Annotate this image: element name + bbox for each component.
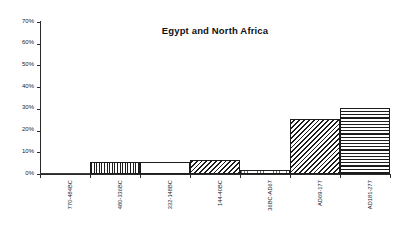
- y-tick-label: 40%: [22, 83, 34, 89]
- y-tick-label: 60%: [22, 39, 34, 45]
- x-tick-mark: [90, 174, 91, 178]
- y-tick-label: 30%: [22, 104, 34, 110]
- x-tick-label-480-336BC: 480-336BC: [117, 180, 123, 209]
- x-tick-label-144-40BC: 144-40BC: [217, 180, 223, 206]
- x-tick-mark: [390, 174, 391, 178]
- y-tick-label: 70%: [22, 18, 34, 24]
- bar-AD69-177: [290, 119, 340, 174]
- bar-36BC-AD67: [240, 170, 290, 174]
- x-tick-mark: [140, 174, 141, 178]
- y-tick-label: 0%: [25, 170, 34, 176]
- bar-144-40BC: [190, 160, 240, 174]
- x-tick-label-36BC-AD67: 36BC-AD67: [267, 180, 273, 211]
- x-tick-mark: [240, 174, 241, 178]
- y-tick-label: 20%: [22, 126, 34, 132]
- x-tick-mark: [290, 174, 291, 178]
- x-tick-mark: [190, 174, 191, 178]
- bar-chart: Egypt and North Africa 0%10%20%30%40%50%…: [0, 0, 400, 229]
- y-tick-mark: [37, 152, 40, 153]
- y-tick-mark: [37, 65, 40, 66]
- y-tick-mark: [37, 22, 40, 23]
- x-axis-line: [40, 174, 391, 175]
- y-tick-label: 50%: [22, 61, 34, 67]
- y-tick-mark: [37, 44, 40, 45]
- x-tick-label-AD69-177: AD69-177: [317, 180, 323, 206]
- y-tick-mark: [37, 87, 40, 88]
- y-tick-label: 10%: [22, 148, 34, 154]
- y-tick-mark: [37, 131, 40, 132]
- x-tick-label-AD181-277: AD181-277: [367, 180, 373, 209]
- chart-title: Egypt and North Africa: [130, 25, 300, 36]
- bar-480-336BC: [90, 162, 140, 174]
- x-tick-mark: [340, 174, 341, 178]
- bar-AD181-277: [340, 108, 390, 174]
- x-tick-mark: [40, 174, 41, 178]
- x-tick-label-770-484BC: 770-484BC: [67, 180, 73, 209]
- x-tick-label-332-148BC: 332-148BC: [167, 180, 173, 209]
- bar-332-148BC: [140, 162, 190, 174]
- y-tick-mark: [37, 109, 40, 110]
- bar-770-484BC: [40, 173, 90, 174]
